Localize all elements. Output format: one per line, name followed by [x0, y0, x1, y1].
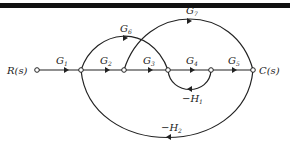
node-2 [79, 68, 84, 73]
node-output [251, 68, 256, 73]
branch-g6 [81, 36, 168, 70]
arrow-g4-icon [190, 67, 195, 73]
gain-h2-label: −H2 [161, 122, 182, 134]
node-5 [209, 68, 214, 73]
gain-g4-label: G4 [186, 55, 198, 67]
node-input [35, 68, 40, 73]
branch-h1 [168, 70, 211, 90]
gain-g3-label: G3 [143, 55, 155, 67]
arrow-g5-icon [232, 67, 237, 73]
gain-g6-label: G6 [120, 23, 132, 35]
arrow-h2-icon [166, 134, 171, 140]
arrow-g3-icon [148, 67, 153, 73]
input-label: R(s) [6, 65, 28, 76]
gain-h1-label: −H1 [182, 93, 203, 105]
arrow-g2-icon [105, 67, 110, 73]
gain-g7-label: G7 [186, 5, 198, 17]
signal-flow-graph: R(s) C(s) G1 G2 G3 G4 G5 G6 G7 −H1 −H2 [0, 0, 290, 158]
node-3 [122, 68, 127, 73]
arrow-g1-icon [64, 67, 69, 73]
node-4 [166, 68, 171, 73]
gain-g5-label: G5 [228, 55, 240, 67]
gain-g2-label: G2 [100, 55, 112, 67]
arrow-h1-icon [187, 86, 192, 92]
gain-g1-label: G1 [56, 55, 68, 67]
output-label: C(s) [259, 65, 280, 76]
